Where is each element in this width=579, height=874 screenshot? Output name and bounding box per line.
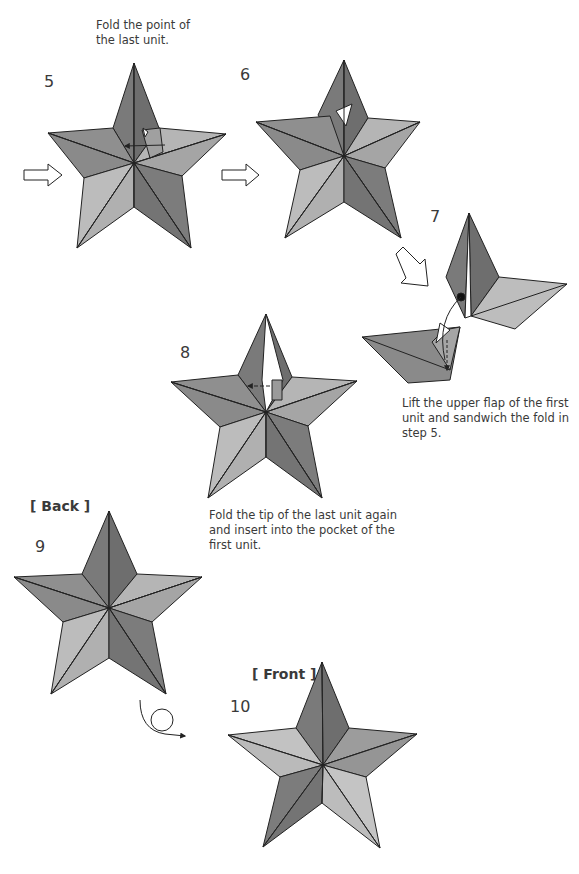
step6-star: [256, 60, 420, 238]
step5-star: [48, 63, 226, 248]
step9-back-star: [14, 511, 202, 694]
step10-front-star: [228, 662, 417, 848]
turn-over-icon: [140, 700, 185, 736]
origami-diagram: [0, 0, 579, 874]
step8-star: [171, 314, 357, 498]
step-arrow-icon: [396, 247, 428, 286]
step-arrow-icon: [222, 164, 259, 186]
step-arrow-icon: [24, 164, 62, 186]
step7-units: [362, 213, 567, 383]
